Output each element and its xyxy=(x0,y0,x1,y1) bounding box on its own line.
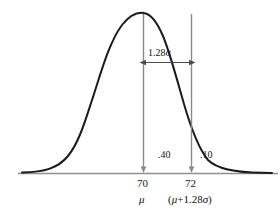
area-label-left: .40 xyxy=(158,150,171,160)
dimension-arrow xyxy=(140,60,196,65)
dimension-label: 1.28σ xyxy=(148,48,171,58)
tick-symbol-upper: (μ+1.28σ) xyxy=(168,194,212,205)
tick-label-mean-value: 70 xyxy=(137,178,148,189)
area-label-right: .10 xyxy=(200,150,213,160)
mean-guide-line xyxy=(141,14,147,173)
normal-distribution-figure: 1.28σ .40 .10 70 72 μ (μ+1.28σ) xyxy=(0,0,280,213)
tick-symbol-mean: μ xyxy=(139,194,145,205)
normal-curve xyxy=(22,13,272,173)
plus-coefficient: +1.28 xyxy=(177,193,202,205)
z-guide-line xyxy=(189,14,195,173)
tick-label-upper-value: 72 xyxy=(185,178,196,189)
paren-close: ) xyxy=(208,193,212,205)
